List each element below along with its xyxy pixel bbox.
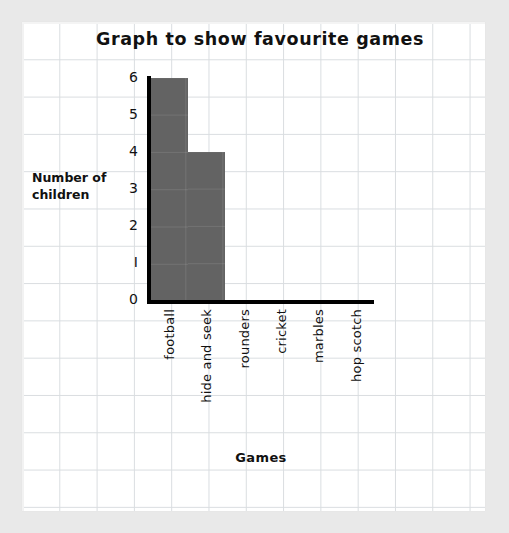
y-tick-0: 0	[112, 292, 138, 306]
x-category-hop-scotch: hop scotch	[337, 309, 374, 439]
y-tick-1: I	[112, 255, 138, 269]
x-category-hide-and-seek: hide and seek	[188, 309, 225, 439]
y-tick-4: 4	[112, 144, 138, 158]
y-tick-5: 5	[112, 107, 138, 121]
screenshot-root: Graph to show favourite games Number of …	[0, 0, 509, 533]
x-category-cricket: cricket	[262, 309, 299, 439]
x-category-football: football	[151, 309, 188, 439]
x-axis-line	[147, 300, 374, 304]
chart-title: Graph to show favourite games	[90, 29, 430, 49]
bar-football	[151, 78, 188, 300]
bar-chart: Graph to show favourite games Number of …	[0, 0, 509, 533]
x-category-label: football	[162, 309, 177, 360]
x-category-label: hide and seek	[199, 309, 214, 403]
y-tick-6: 6	[112, 70, 138, 84]
y-tick-2: 2	[112, 218, 138, 232]
x-category-label: marbles	[311, 309, 326, 363]
x-category-label: cricket	[274, 309, 289, 354]
x-category-rounders: rounders	[225, 309, 262, 439]
x-category-label: rounders	[236, 309, 251, 368]
y-tick-3: 3	[112, 181, 138, 195]
bar-hide-and-seek	[188, 152, 225, 300]
x-axis-label: Games	[186, 450, 336, 465]
x-category-marbles: marbles	[300, 309, 337, 439]
x-category-label: hop scotch	[348, 309, 363, 382]
